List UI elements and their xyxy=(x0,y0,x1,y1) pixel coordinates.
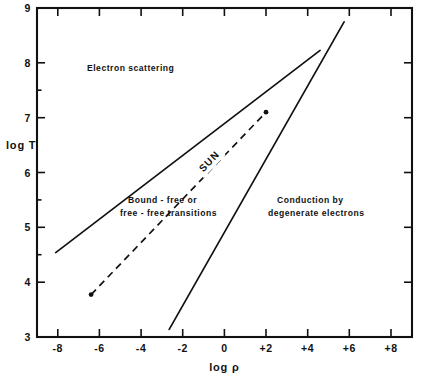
plot-frame xyxy=(37,8,412,337)
marker-lower-track-point xyxy=(89,292,94,297)
y-tick-label-7: 7 xyxy=(25,112,31,124)
x-tick-label-pos8: +8 xyxy=(384,342,397,354)
chart-canvas: 9 8 7 6 5 4 3 -8 -6 -4 -2 0 +2 +4 +6 +8 … xyxy=(0,0,425,376)
y-tick-label-3: 3 xyxy=(25,331,31,343)
x-axis-label: log ρ xyxy=(209,361,239,373)
x-tick-label-neg6: -6 xyxy=(94,342,105,354)
y-tick-marks xyxy=(37,63,45,282)
x-tick-label-pos2: +2 xyxy=(259,342,272,354)
annotation-electron-scattering: Electron scattering xyxy=(87,63,174,73)
y-tick-label-9: 9 xyxy=(25,2,31,14)
x-tick-label-neg2: -2 xyxy=(177,342,188,354)
x-tick-marks-top xyxy=(58,8,391,16)
x-tick-marks xyxy=(58,329,391,337)
y-tick-marks-right xyxy=(404,63,412,282)
series-degeneracy-boundary xyxy=(169,22,344,330)
y-tick-label-5: 5 xyxy=(25,221,31,233)
x-tick-label-pos6: +6 xyxy=(343,342,356,354)
y-tick-label-4: 4 xyxy=(25,276,31,288)
opacity-regime-chart: 9 8 7 6 5 4 3 -8 -6 -4 -2 0 +2 +4 +6 +8 … xyxy=(0,0,425,376)
annotation-bound-free-line1: Bound - free or xyxy=(128,195,197,205)
x-tick-label-0: 0 xyxy=(221,342,227,354)
annotation-conduction-line2: degenerate electrons xyxy=(268,208,364,218)
x-tick-label-neg8: -8 xyxy=(53,342,64,354)
marker-sun-point xyxy=(264,110,269,115)
y-tick-label-6: 6 xyxy=(25,167,31,179)
annotation-conduction-line1: Conduction by xyxy=(277,195,344,205)
annotation-sun-group: SUN xyxy=(193,145,225,178)
series-electron-scattering-boundary xyxy=(56,50,320,252)
x-tick-label-pos4: +4 xyxy=(301,342,314,354)
annotation-bound-free-line2: free - free transitions xyxy=(120,208,217,218)
y-axis-label: log T xyxy=(6,139,36,151)
y-tick-label-8: 8 xyxy=(25,57,31,69)
x-tick-label-neg4: -4 xyxy=(136,342,147,354)
